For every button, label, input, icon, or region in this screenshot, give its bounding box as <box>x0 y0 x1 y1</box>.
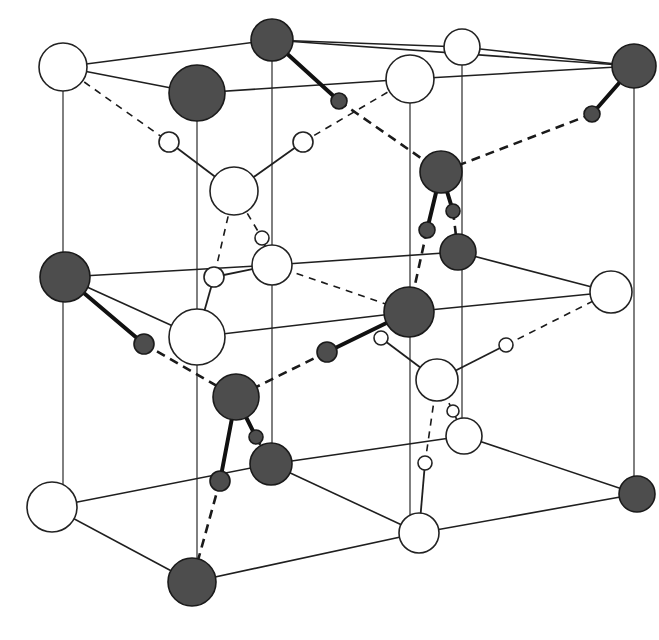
small-atoms <box>134 93 600 491</box>
atom-light-w2 <box>444 29 480 65</box>
crystal-lattice-diagram <box>0 0 659 640</box>
hydrogen-atom-dark-h3 <box>446 204 460 218</box>
hydrogen-atom-light-h10 <box>293 132 313 152</box>
hydrogen-atom-light-h9 <box>159 132 179 152</box>
lattice-edge <box>464 436 637 494</box>
hydrogen-atom-light-h13 <box>374 331 388 345</box>
lattice-edge <box>192 533 419 582</box>
hydrogen-atom-dark-h5 <box>134 334 154 354</box>
atom-light-w9 <box>446 418 482 454</box>
atom-light-w4 <box>210 167 258 215</box>
lattice-edge <box>63 40 272 67</box>
atom-dark-d11 <box>168 558 216 606</box>
hydrogen-atom-light-h15 <box>447 405 459 417</box>
lattice-edge <box>409 292 611 312</box>
lattice-edge <box>271 464 419 533</box>
atom-dark-d5 <box>440 234 476 270</box>
lattice-edge <box>458 252 611 292</box>
lattice-edge <box>52 464 271 507</box>
hydrogen-atom-dark-h4 <box>419 222 435 238</box>
hydrogen-bond <box>441 114 592 172</box>
hydrogen-atom-dark-h2 <box>584 106 600 122</box>
atom-dark-d6 <box>40 252 90 302</box>
atom-dark-d7 <box>384 287 434 337</box>
lattice-edge <box>419 494 637 533</box>
hydrogen-atom-light-h12 <box>204 267 224 287</box>
atom-dark-d4 <box>420 151 462 193</box>
atom-light-w6 <box>169 309 225 365</box>
atom-dark-d9 <box>250 443 292 485</box>
atom-dark-d3 <box>612 44 656 88</box>
hydrogen-atom-dark-h7 <box>249 430 263 444</box>
atom-light-w1 <box>39 43 87 91</box>
lattice-vertical-lines <box>63 61 634 582</box>
hydrogen-atom-dark-h1 <box>331 93 347 109</box>
atom-light-w8 <box>416 359 458 401</box>
atom-dark-d1 <box>251 19 293 61</box>
lattice-edge <box>272 40 462 47</box>
atom-dark-d2 <box>169 65 225 121</box>
hydrogen-atom-light-h16 <box>418 456 432 470</box>
lattice-edge <box>272 252 458 265</box>
atom-light-w11 <box>399 513 439 553</box>
atom-dark-d10 <box>619 476 655 512</box>
hydrogen-bonds-thin <box>63 67 611 463</box>
lattice-edge <box>462 47 634 66</box>
hydrogen-atom-dark-h8 <box>210 471 230 491</box>
lattice-edge <box>197 79 410 93</box>
hydrogen-atom-light-h14 <box>499 338 513 352</box>
atom-light-w7 <box>590 271 632 313</box>
hydrogen-atom-dark-h6 <box>317 342 337 362</box>
atom-dark-d8 <box>213 374 259 420</box>
atom-light-w10 <box>27 482 77 532</box>
covalent-bonds <box>65 40 634 481</box>
atom-light-w3 <box>386 55 434 103</box>
lattice-edge <box>410 66 634 79</box>
atom-light-w5 <box>252 245 292 285</box>
hydrogen-atom-light-h11 <box>255 231 269 245</box>
lattice-edge <box>271 436 464 464</box>
